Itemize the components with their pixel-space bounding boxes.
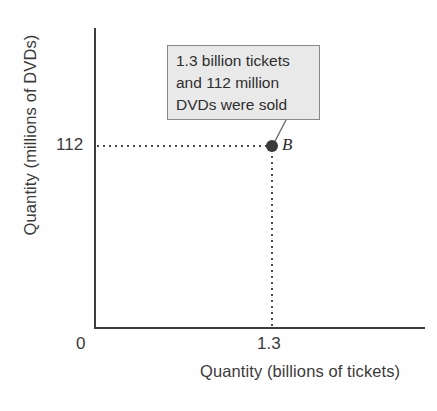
callout-line-1: 1.3 billion tickets (176, 50, 312, 72)
x-axis-tick-label-1-3: 1.3 (257, 334, 281, 354)
data-point-b-marker (266, 140, 278, 152)
y-axis-title: Quantity (millions of DVDs) (21, 35, 40, 236)
horizontal-guide-line (97, 145, 272, 147)
x-axis-line (94, 327, 425, 329)
x-axis-title: Quantity (billions of tickets) (200, 362, 400, 381)
data-point-b-label: B (282, 135, 292, 155)
y-axis-tick-label-112: 112 (56, 135, 83, 155)
x-axis-origin-label: 0 (76, 334, 85, 354)
vertical-guide-line (271, 150, 273, 328)
chart-figure: B 112 0 1.3 Quantity (billions of ticket… (0, 0, 437, 411)
annotation-callout-box: 1.3 billion tickets and 112 million DVDs… (167, 45, 320, 120)
y-axis-line (94, 28, 96, 329)
callout-line-2: and 112 million (176, 72, 312, 94)
callout-line-3: DVDs were sold (176, 94, 312, 116)
